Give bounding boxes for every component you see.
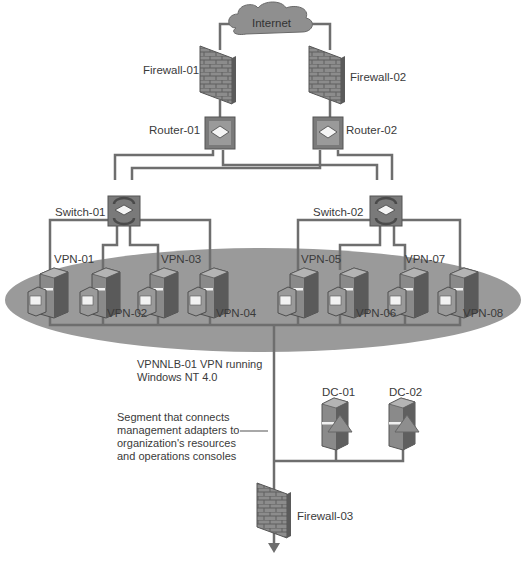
- vpn-02-label: VPN-02: [107, 307, 147, 320]
- arrow-down-icon: [268, 543, 280, 553]
- switch-02-label: Switch-02: [313, 206, 364, 219]
- switch-icon: [108, 196, 140, 226]
- segment-note-line: management adapters to: [117, 424, 239, 437]
- segment-note: Segment that connects management adapter…: [117, 411, 239, 463]
- vpn-04-label: VPN-04: [216, 307, 256, 320]
- domain-controller-icon: [389, 398, 419, 450]
- cluster-caption-line2: Windows NT 4.0: [137, 371, 262, 384]
- vpn-06-label: VPN-06: [356, 307, 396, 320]
- domain-controller-icon: [322, 398, 352, 450]
- vpn-05-label: VPN-05: [301, 253, 341, 266]
- router-02-label: Router-02: [346, 124, 397, 137]
- internet-label: Internet: [252, 17, 291, 30]
- vpn-03-label: VPN-03: [161, 253, 201, 266]
- router-01-label: Router-01: [149, 124, 200, 137]
- switch-icon: [370, 196, 402, 226]
- firewall-icon: [309, 46, 345, 104]
- firewall-icon: [200, 46, 236, 104]
- firewall-02-label: Firewall-02: [350, 71, 406, 84]
- cluster-caption-line1: VPNNLB-01 VPN running: [137, 358, 262, 371]
- router-icon: [205, 117, 235, 149]
- vpn-01-label: VPN-01: [54, 253, 94, 266]
- dc-02-label: DC-02: [389, 386, 422, 399]
- firewall-03-label: Firewall-03: [297, 510, 353, 523]
- cluster-caption: VPNNLB-01 VPN running Windows NT 4.0: [137, 358, 262, 384]
- switch-01-label: Switch-01: [55, 206, 106, 219]
- firewall-icon: [257, 483, 291, 538]
- vpn-07-label: VPN-07: [405, 253, 445, 266]
- vpn-08-label: VPN-08: [463, 307, 503, 320]
- router-icon: [313, 117, 343, 149]
- segment-note-line: Segment that connects: [117, 411, 239, 424]
- segment-note-line: and operations consoles: [117, 450, 239, 463]
- dc-01-label: DC-01: [322, 386, 355, 399]
- firewall-01-label: Firewall-01: [143, 64, 199, 77]
- vpn-server-icon: [28, 268, 68, 318]
- network-diagram: [0, 0, 525, 561]
- segment-note-line: organization's resources: [117, 437, 239, 450]
